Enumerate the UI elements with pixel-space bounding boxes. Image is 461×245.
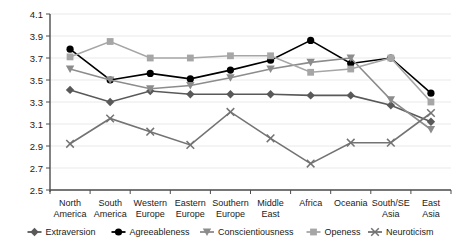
x-category-label: North — [59, 198, 81, 208]
data-point-square — [307, 69, 314, 76]
data-point-circle — [187, 75, 194, 82]
legend-item-openess[interactable]: Openess — [307, 227, 362, 237]
x-category-label: Eastern — [175, 198, 206, 208]
chart-legend: ExtraversionAgreeablenessConscientiousne… — [28, 227, 434, 237]
series-neuroticism — [66, 108, 435, 167]
legend-item-agreeableness[interactable]: Agreeableness — [112, 227, 191, 237]
series-line — [70, 42, 431, 103]
data-point-square — [67, 54, 74, 61]
y-tick-label: 3.1 — [30, 119, 43, 130]
data-point-circle — [66, 46, 73, 53]
y-tick-label: 2.9 — [30, 141, 43, 152]
data-point-circle — [115, 228, 122, 235]
data-point-square — [347, 66, 354, 73]
data-point-square — [107, 38, 114, 45]
x-category-labels-group: NorthAmericaSouthAmericaWesternEuropeEas… — [54, 198, 441, 219]
data-point-diamond — [306, 91, 314, 99]
legend-label: Conscientiousness — [218, 227, 294, 237]
x-category-label: Southern — [212, 198, 249, 208]
x-category-label: East — [422, 198, 441, 208]
x-category-label: Middle — [257, 198, 284, 208]
data-point-square — [428, 99, 435, 106]
legend-label: Agreeableness — [130, 227, 191, 237]
x-category-label: South — [98, 198, 122, 208]
y-axis-group — [46, 14, 50, 192]
y-tick-label: 3.9 — [30, 31, 43, 42]
y-tick-labels-group: 4.13.93.73.53.33.12.92.72.5 — [30, 9, 43, 196]
legend-item-neuroticism[interactable]: Neuroticism — [368, 227, 434, 237]
data-point-diamond — [186, 90, 194, 98]
x-category-label: Asia — [382, 209, 400, 219]
y-tick-label: 3.7 — [30, 53, 43, 64]
x-category-label: Western — [134, 198, 167, 208]
x-category-label: South/SE — [372, 198, 410, 208]
data-point-square — [187, 55, 194, 62]
x-category-label: East — [262, 209, 281, 219]
data-point-square — [310, 229, 317, 236]
series-extraversion — [66, 86, 435, 126]
y-tick-label: 3.3 — [30, 97, 43, 108]
legend-item-extraversion[interactable]: Extraversion — [28, 227, 96, 237]
x-axis-group — [50, 190, 451, 194]
chart-svg: 4.13.93.73.53.33.12.92.72.5 NorthAmerica… — [0, 0, 461, 245]
data-point-triangle — [427, 126, 435, 134]
data-point-circle — [427, 90, 434, 97]
legend-label: Extraversion — [46, 227, 96, 237]
data-point-diamond — [66, 86, 74, 94]
data-point-square — [267, 52, 274, 59]
legend-item-conscientiousness[interactable]: Conscientiousness — [200, 227, 294, 237]
data-point-square — [387, 55, 394, 62]
data-point-circle — [227, 67, 234, 74]
data-point-diamond — [266, 90, 274, 98]
legend-label: Openess — [325, 227, 362, 237]
data-point-diamond — [347, 91, 355, 99]
y-tick-label: 4.1 — [30, 9, 43, 20]
data-point-square — [227, 52, 234, 59]
data-point-diamond — [30, 228, 38, 236]
x-category-label: Africa — [299, 198, 322, 208]
x-category-label: Europe — [136, 209, 165, 219]
x-category-label: Asia — [422, 209, 440, 219]
data-point-diamond — [106, 98, 114, 106]
x-category-label: America — [54, 209, 87, 219]
series-line — [70, 90, 431, 122]
data-point-square — [147, 55, 154, 62]
x-category-label: America — [94, 209, 127, 219]
x-category-label: Oceania — [334, 198, 368, 208]
personality-traits-line-chart: 4.13.93.73.53.33.12.92.72.5 NorthAmerica… — [0, 0, 461, 245]
y-tick-label: 2.5 — [30, 185, 43, 196]
x-category-label: Europe — [216, 209, 245, 219]
data-point-circle — [307, 37, 314, 44]
legend-label: Neuroticism — [386, 227, 434, 237]
data-point-diamond — [226, 90, 234, 98]
y-tick-label: 2.7 — [30, 163, 43, 174]
data-point-circle — [147, 70, 154, 77]
series-openess — [67, 38, 435, 105]
data-point-diamond — [427, 118, 435, 126]
x-category-label: Europe — [176, 209, 205, 219]
y-tick-label: 3.5 — [30, 75, 43, 86]
series-line — [70, 112, 431, 164]
